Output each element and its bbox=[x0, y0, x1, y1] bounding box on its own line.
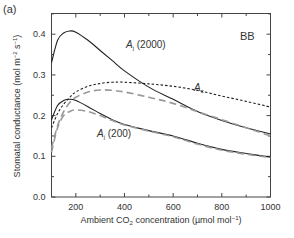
curve-label-aj2000: Aj (2000) bbox=[125, 39, 166, 51]
y-tick-label: 0.3 bbox=[33, 70, 46, 80]
y-tick-label: 0.2 bbox=[33, 111, 46, 121]
curve-aj-200 bbox=[52, 99, 271, 157]
x-tick-label: 200 bbox=[68, 202, 83, 212]
x-tick-label: 1000 bbox=[260, 202, 280, 212]
chart: 20040060080010000.00.10.20.30.4 (a) BB A… bbox=[0, 0, 294, 238]
x-tick-label: 400 bbox=[117, 202, 132, 212]
y-tick-label: 0.0 bbox=[33, 192, 46, 202]
x-axis-label: Ambient CO2 concentration (µmol mol−1) bbox=[81, 215, 242, 226]
y-tick-label: 0.4 bbox=[33, 29, 46, 39]
corner-label: BB bbox=[240, 30, 255, 42]
curve-label-aj200: Aj (200) bbox=[96, 128, 131, 140]
y-axis-label: Stomatal conductance (mol m−2 s−1) bbox=[12, 35, 22, 178]
x-tick-label: 800 bbox=[214, 202, 229, 212]
y-tick-label: 0.1 bbox=[33, 151, 46, 161]
x-tick-label: 600 bbox=[166, 202, 181, 212]
panel-label: (a) bbox=[3, 3, 16, 15]
curve-label-ac: Ac bbox=[193, 82, 204, 94]
curve-aj-2000-model bbox=[52, 90, 271, 148]
